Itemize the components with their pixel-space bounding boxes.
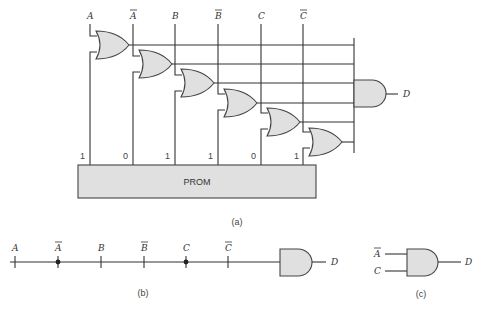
b-label-a-bar: A xyxy=(54,243,62,253)
prom-bit-1: 1 xyxy=(80,151,85,161)
caption-b: (b) xyxy=(138,288,149,298)
b-label-c: C xyxy=(183,243,190,253)
or-gate-4 xyxy=(224,89,257,117)
prom-bit-5: 0 xyxy=(251,151,256,161)
part-b-circuit: A A B B C C D (b) xyxy=(10,242,338,298)
prom-bits: 1 0 1 1 0 1 xyxy=(80,151,299,161)
circuit-figure: A A B B C C xyxy=(0,0,477,310)
or-gate-6 xyxy=(309,128,342,156)
fuse-connection-c xyxy=(184,260,189,265)
prom-bit-4: 1 xyxy=(208,151,213,161)
prom-bit-2: 0 xyxy=(123,151,128,161)
prom-label: PROM xyxy=(184,177,211,187)
caption-c: (c) xyxy=(416,289,427,299)
input-label-c: C xyxy=(258,11,265,21)
prom-bit-3: 1 xyxy=(165,151,170,161)
c-and-gate xyxy=(407,249,438,276)
input-label-a-bar: A xyxy=(129,11,137,21)
or-gate-3 xyxy=(181,69,214,97)
b-label-b: B xyxy=(97,243,105,253)
input-label-c-bar: C xyxy=(300,11,307,21)
part-c-circuit: A C D (c) xyxy=(373,248,472,299)
input-label-a: A xyxy=(86,11,94,21)
or-gate-5 xyxy=(267,108,300,136)
prom-bit-6: 1 xyxy=(294,151,299,161)
fuse-connection-a-bar xyxy=(56,260,61,265)
caption-a: (a) xyxy=(232,217,243,227)
output-label-d: D xyxy=(402,89,410,99)
b-label-a: A xyxy=(11,243,19,253)
b-and-gate xyxy=(280,249,312,276)
c-output-label-d: D xyxy=(464,257,472,267)
input-label-b-bar: B xyxy=(214,11,222,21)
c-label-c: C xyxy=(374,266,381,276)
and-gate xyxy=(354,80,386,107)
b-output-label-d: D xyxy=(330,257,338,267)
b-label-c-bar: C xyxy=(225,243,232,253)
or-gate-2 xyxy=(139,50,172,78)
input-label-b: B xyxy=(171,11,179,21)
b-label-b-bar: B xyxy=(140,243,148,253)
c-label-a-bar: A xyxy=(373,249,381,259)
or-gate-1 xyxy=(96,31,129,59)
part-a-circuit: A A B B C C xyxy=(78,10,410,227)
